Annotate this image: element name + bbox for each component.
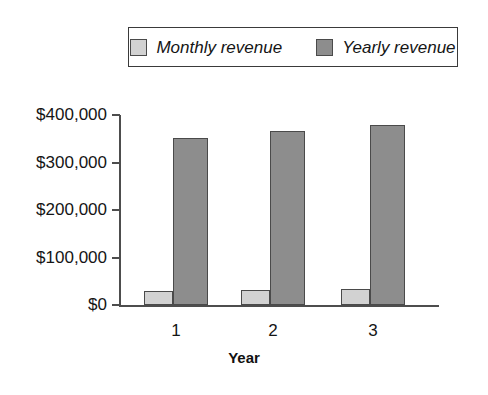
x-axis-line [119, 305, 439, 307]
y-axis-tick [112, 114, 120, 116]
y-axis-tick-label: $100,000 [0, 249, 107, 266]
bar-yearly-revenue [173, 138, 208, 305]
x-axis-category-label: 2 [243, 322, 303, 339]
bar-chart-figure: Monthly revenue Yearly revenue $0$100,00… [0, 0, 488, 395]
legend-label-yearly-revenue: Yearly revenue [342, 39, 455, 56]
bar-monthly-revenue [144, 291, 173, 305]
bar-yearly-revenue [370, 125, 405, 305]
x-axis-title: Year [0, 350, 488, 365]
bar-monthly-revenue [341, 289, 370, 305]
y-axis-tick [112, 209, 120, 211]
legend-swatch-yearly-revenue [316, 39, 333, 56]
y-axis-tick [112, 257, 120, 259]
bar-monthly-revenue [241, 290, 270, 305]
y-axis-tick [112, 162, 120, 164]
y-axis-tick-label: $200,000 [0, 201, 107, 218]
y-axis-tick-label: $0 [0, 296, 107, 313]
y-axis-tick-label: $300,000 [0, 154, 107, 171]
bar-yearly-revenue [270, 131, 305, 305]
x-axis-category-label: 3 [343, 322, 403, 339]
y-axis-tick [112, 304, 120, 306]
legend-swatch-monthly-revenue [130, 39, 147, 56]
legend-item-yearly-revenue: Yearly revenue [316, 39, 455, 56]
y-axis-tick-label: $400,000 [0, 106, 107, 123]
legend-item-monthly-revenue: Monthly revenue [130, 39, 282, 56]
chart-legend: Monthly revenue Yearly revenue [128, 27, 458, 67]
legend-label-monthly-revenue: Monthly revenue [156, 39, 282, 56]
x-axis-category-label: 1 [146, 322, 206, 339]
plot-area [119, 115, 439, 305]
